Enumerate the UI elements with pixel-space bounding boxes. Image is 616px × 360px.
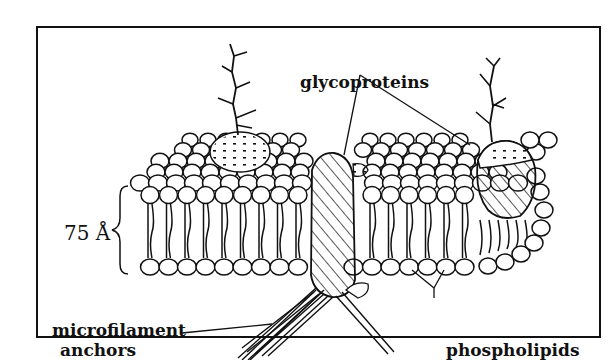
glycoproteins-label: glycoproteins <box>300 72 429 92</box>
left-glycoprotein <box>210 44 270 172</box>
thickness-brace <box>112 186 128 274</box>
membrane-diagram: 75 Å glycoproteins microfilament anchors… <box>0 0 616 360</box>
anchors-label: anchors <box>60 340 136 360</box>
thickness-label: 75 Å <box>64 220 111 245</box>
central-transmembrane-protein <box>311 153 368 298</box>
microfilament-anchors <box>238 288 394 360</box>
phospholipids-label: phospholipids <box>446 340 579 360</box>
microfilament-label: microfilament <box>52 320 186 340</box>
sugar-chain-left <box>230 44 238 135</box>
